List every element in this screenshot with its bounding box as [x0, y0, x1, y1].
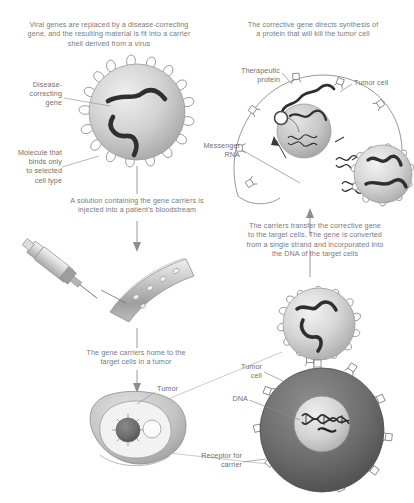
- caption-transfer: The carriers transfer the corrective gen…: [222, 221, 408, 259]
- disease-correcting-gene-strand: [108, 90, 165, 101]
- label-tumor-cell-bottom: Tumor cell: [212, 362, 262, 380]
- nucleus: [277, 104, 331, 158]
- label-receptor-for-carrier: Receptor for carrier: [178, 451, 242, 469]
- tumor-mass: [90, 391, 186, 465]
- leader-disease-correcting-gene: [64, 98, 110, 106]
- label-messenger-rna: Messenger RNA: [182, 141, 240, 159]
- label-therapeutic-protein: Therapeutic protein: [208, 66, 280, 84]
- caption-injection: A solution containing the gene carriers …: [34, 196, 240, 215]
- tumor-cell-protein-synthesis: [234, 73, 402, 204]
- capsid-shell: [89, 64, 185, 160]
- label-tumor-cell-top: Tumor cell: [354, 78, 412, 87]
- label-disease-correcting-gene: Disease- correcting gene: [4, 80, 62, 108]
- caption-top-left: Viral genes are replaced by a disease-co…: [14, 20, 204, 48]
- caption-homing: The gene carriers home to the target cel…: [54, 348, 218, 367]
- caption-top-right: The corrective gene directs synthesis of…: [218, 20, 408, 39]
- virus-carrier-docking: [276, 286, 362, 371]
- leader-tumor-cell-bottom: [264, 372, 285, 382]
- gene-therapy-diagram: Viral genes are replaced by a disease-co…: [0, 0, 414, 503]
- disease-correcting-gene-strand: [111, 117, 137, 155]
- label-tumor: Tumor: [157, 384, 197, 393]
- leader-therapeutic-protein: [282, 73, 292, 84]
- syringe: [20, 235, 102, 304]
- blood-vessel: [101, 258, 194, 322]
- virus-carrier-top-left: [79, 55, 195, 168]
- leader-dna: [249, 400, 300, 420]
- leader-messenger-rna: [242, 150, 300, 183]
- tumor-cell-membrane: [260, 368, 384, 492]
- leader-tumor-cell-top: [340, 84, 352, 92]
- therapeutic-protein: [275, 85, 335, 132]
- leader-molecule-binds: [62, 156, 99, 167]
- cell-nucleus: [294, 396, 350, 452]
- tumor-cell-membrane-arc: [234, 75, 402, 200]
- tumor-cell-highlighted: [116, 418, 140, 442]
- label-molecule-binds: Molecule that binds only to selected cel…: [0, 148, 62, 185]
- messenger-rna-strands: [336, 156, 371, 194]
- carrier-releasing-gene: [350, 143, 414, 207]
- dna-double-helix: [302, 414, 349, 425]
- leader-receptor-for-carrier: [243, 459, 266, 462]
- leader-tumor: [137, 392, 155, 404]
- tumor-cell-with-dna: [253, 356, 393, 493]
- label-dna: DNA: [210, 394, 248, 403]
